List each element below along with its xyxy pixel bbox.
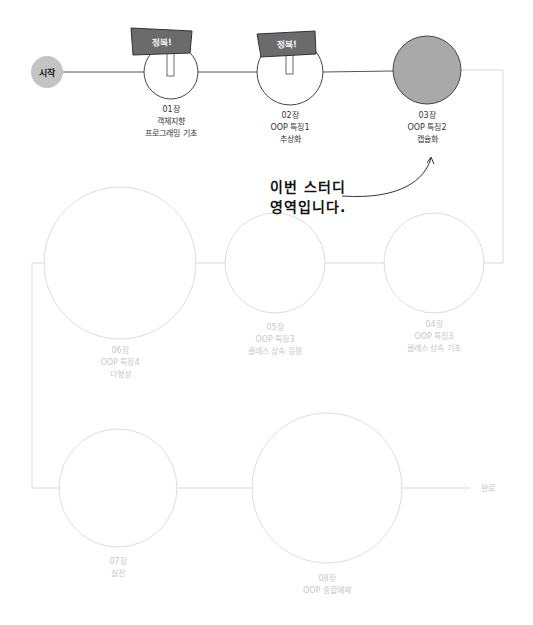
- path-line: [323, 71, 393, 72]
- study-scope-note: 이번 스터디영역입니다.: [270, 177, 346, 217]
- start-label: 시작: [39, 66, 55, 79]
- stage-circle-05[interactable]: [225, 213, 325, 313]
- stage-label-05: 05장OOP 특징3클래스 상속 응용: [248, 322, 302, 358]
- note-arrow: [342, 158, 431, 197]
- stage-circle-04[interactable]: [384, 213, 484, 313]
- stage-label-07: 07장실전: [109, 556, 126, 580]
- sign-label-02: 정복!: [277, 37, 298, 51]
- roadmap-diagram: [0, 0, 533, 625]
- stage-label-04: 04장OOP 특징3클래스 상속 기초: [407, 319, 461, 355]
- stage-label-01: 01장객체지향프로그래밍 기초: [145, 104, 197, 140]
- end-label: 완료: [481, 482, 495, 493]
- stage-circle-08[interactable]: [252, 413, 402, 563]
- stage-label-06: 06장OOP 특징4다형성: [100, 345, 139, 381]
- sign-label-01: 정복!: [152, 35, 173, 49]
- stage-circle-07[interactable]: [59, 429, 177, 547]
- stage-label-08: 08장OOP 종합예제: [303, 573, 351, 597]
- stage-label-02: 02장OOP 특징1추상화: [270, 110, 309, 146]
- stage-label-03: 03장OOP 특징2캡슐화: [407, 110, 446, 146]
- stage-circle-03[interactable]: [393, 36, 461, 104]
- stage-circle-06[interactable]: [44, 187, 196, 339]
